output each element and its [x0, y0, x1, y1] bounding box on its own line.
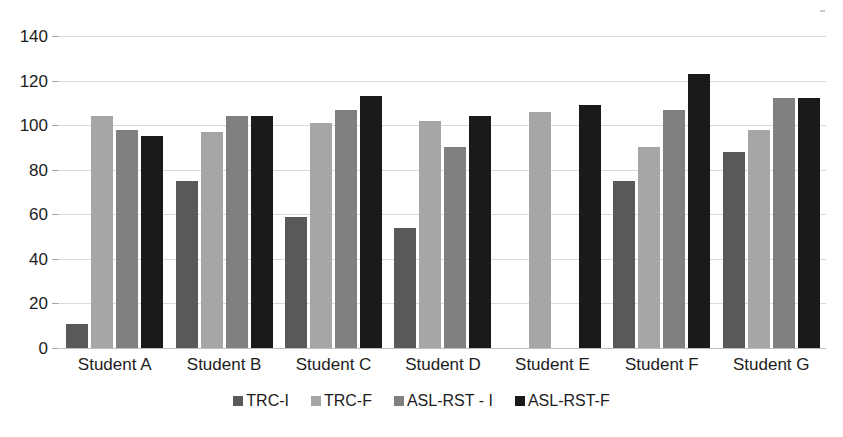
- bar-set: [169, 36, 278, 348]
- bar-trc-i-student-c[interactable]: [285, 217, 307, 348]
- bar-trc-i-student-d[interactable]: [394, 228, 416, 348]
- legend-label: TRC-F: [324, 393, 372, 409]
- bar-trc-f-student-d[interactable]: [419, 121, 441, 348]
- bar-asl-rst-i-student-a[interactable]: [116, 130, 138, 348]
- bar-trc-f-student-g[interactable]: [748, 130, 770, 348]
- legend-label: ASL-RST-F: [528, 393, 610, 409]
- bar-chart: 020406080100120140 Student AStudent BStu…: [0, 0, 843, 437]
- x-tick-label: Student E: [498, 352, 607, 375]
- bar-trc-f-student-f[interactable]: [638, 147, 660, 348]
- bar-asl-rst-i-student-f[interactable]: [663, 110, 685, 348]
- x-tick-label: Student B: [169, 352, 278, 375]
- bar-asl-rst-i-student-c[interactable]: [335, 110, 357, 348]
- y-tick-mark-120: [52, 81, 59, 82]
- bar-asl-rst-f-student-e[interactable]: [579, 105, 601, 348]
- bar-trc-i-student-b[interactable]: [176, 181, 198, 348]
- legend-swatch-icon: [233, 396, 243, 406]
- legend-item[interactable]: TRC-F: [311, 393, 372, 409]
- y-tick-label-140: 140: [4, 28, 48, 45]
- bar-trc-f-student-b[interactable]: [201, 132, 223, 348]
- gridline-0: [60, 348, 826, 349]
- bar-group: [169, 36, 278, 348]
- x-tick-label: Student D: [388, 352, 497, 375]
- x-tick-label: Student A: [60, 352, 169, 375]
- y-tick-label-40: 40: [4, 250, 48, 267]
- bar-group: [607, 36, 716, 348]
- bar-asl-rst-f-student-b[interactable]: [251, 116, 273, 348]
- y-tick-mark-140: [52, 36, 59, 37]
- y-tick-label-100: 100: [4, 117, 48, 134]
- bar-asl-rst-f-student-f[interactable]: [688, 74, 710, 348]
- bar-trc-f-student-a[interactable]: [91, 116, 113, 348]
- y-tick-label-60: 60: [4, 206, 48, 223]
- bar-group: [279, 36, 388, 348]
- bar-group: [498, 36, 607, 348]
- y-tick-mark-20: [52, 303, 59, 304]
- y-tick-mark-100: [52, 125, 59, 126]
- y-tick-mark-60: [52, 214, 59, 215]
- x-tick-label: Student G: [717, 352, 826, 375]
- bar-group: [717, 36, 826, 348]
- legend-swatch-icon: [515, 396, 525, 406]
- x-tick-label: Student F: [607, 352, 716, 375]
- bar-set: [60, 36, 169, 348]
- bar-trc-f-student-e[interactable]: [529, 112, 551, 348]
- bar-asl-rst-i-student-b[interactable]: [226, 116, 248, 348]
- bar-trc-i-student-a[interactable]: [66, 324, 88, 349]
- y-tick-label-80: 80: [4, 161, 48, 178]
- legend-item[interactable]: TRC-I: [233, 393, 289, 409]
- bar-asl-rst-f-student-d[interactable]: [469, 116, 491, 348]
- bar-trc-i-student-f[interactable]: [613, 181, 635, 348]
- bar-asl-rst-i-student-d[interactable]: [444, 147, 466, 348]
- y-tick-label-120: 120: [4, 72, 48, 89]
- legend-swatch-icon: [394, 396, 404, 406]
- legend-item[interactable]: ASL-RST-F: [515, 393, 610, 409]
- bar-trc-i-student-g[interactable]: [723, 152, 745, 348]
- bar-group: [388, 36, 497, 348]
- bar-asl-rst-f-student-c[interactable]: [360, 96, 382, 348]
- bar-set: [607, 36, 716, 348]
- x-axis-labels: Student AStudent BStudent CStudent DStud…: [60, 352, 826, 375]
- y-tick-label-20: 20: [4, 295, 48, 312]
- y-tick-mark-0: [52, 348, 59, 349]
- bar-set: [717, 36, 826, 348]
- legend-swatch-icon: [311, 396, 321, 406]
- bar-asl-rst-i-student-g[interactable]: [773, 98, 795, 348]
- y-tick-mark-80: [52, 170, 59, 171]
- bar-set: [279, 36, 388, 348]
- y-tick-mark-40: [52, 259, 59, 260]
- y-axis-labels: 020406080100120140: [0, 36, 48, 348]
- x-tick-label: Student C: [279, 352, 388, 375]
- bar-asl-rst-f-student-g[interactable]: [798, 98, 820, 348]
- bar-trc-f-student-c[interactable]: [310, 123, 332, 348]
- bar-group: [60, 36, 169, 348]
- legend-item[interactable]: ASL-RST - I: [394, 393, 493, 409]
- chart-legend: TRC-ITRC-FASL-RST - IASL-RST-F: [0, 393, 843, 409]
- bar-set: [498, 36, 607, 348]
- y-tick-label-0: 0: [4, 340, 48, 357]
- bar-set: [388, 36, 497, 348]
- bar-groups: [60, 36, 826, 348]
- legend-label: ASL-RST - I: [407, 393, 493, 409]
- corner-artifact: [820, 10, 825, 12]
- legend-label: TRC-I: [246, 393, 289, 409]
- bar-asl-rst-f-student-a[interactable]: [141, 136, 163, 348]
